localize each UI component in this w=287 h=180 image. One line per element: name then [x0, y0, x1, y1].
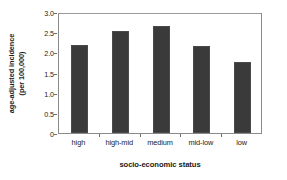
plot-area — [58, 13, 262, 134]
bar-chart-figure: age-adjusted incidence (per 100,000) 3.0… — [0, 0, 287, 180]
bar-high-mid — [112, 31, 129, 133]
bar-medium — [153, 26, 170, 133]
x-axis-title: socio-economic status — [58, 160, 262, 169]
y-axis-title-line1: age-adjusted incidence — [7, 34, 17, 114]
x-axis-tick-mark — [99, 134, 100, 137]
y-axis-tick-mark — [54, 13, 57, 14]
y-axis-tick-label: 2.0 — [30, 49, 54, 58]
x-axis-tick-label-low: low — [212, 138, 272, 147]
bar-mid-low — [193, 46, 210, 133]
y-axis-tick-mark — [54, 94, 57, 95]
y-axis-tick-labels: 3.02.52.01.51.00.50 — [30, 13, 54, 134]
bar-low — [234, 62, 251, 133]
y-axis-tick-mark — [54, 33, 57, 34]
y-axis-tick-label: 3.0 — [30, 9, 54, 18]
y-axis-title: age-adjusted incidence (per 100,000) — [6, 13, 28, 134]
x-axis-tick-mark — [180, 134, 181, 137]
y-axis-tick-mark — [54, 114, 57, 115]
y-axis-tick-mark — [54, 74, 57, 75]
y-axis-title-line2: (per 100,000) — [17, 52, 27, 96]
y-axis-tick-label: 2.5 — [30, 29, 54, 38]
x-axis-tick-labels: highhigh-midmediummid-lowlow — [58, 138, 262, 150]
bars-container — [59, 14, 261, 133]
y-axis-tick-mark — [54, 134, 57, 135]
x-axis-tick-mark — [140, 134, 141, 137]
bar-high — [71, 45, 88, 133]
x-axis-tick-mark — [221, 134, 222, 137]
y-axis-tick-mark — [54, 53, 57, 54]
y-axis-tick-label: 1.0 — [30, 89, 54, 98]
y-axis-tick-label: 0.5 — [30, 109, 54, 118]
y-axis-tick-label: 1.5 — [30, 69, 54, 78]
